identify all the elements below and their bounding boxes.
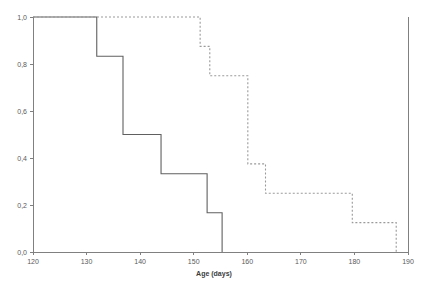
axes-group (33, 17, 408, 252)
data-series-group (33, 17, 396, 252)
tick-marks-group (30, 17, 408, 255)
y-tick-label: 0,2 (17, 202, 27, 209)
y-tick-label: 1,0 (17, 14, 27, 21)
x-tick-label: 140 (134, 258, 146, 265)
x-tick-label: 190 (402, 258, 414, 265)
x-tick-label: 130 (81, 258, 93, 265)
chart-canvas: 120130140150160170180190 0,00,20,40,60,8… (0, 0, 429, 287)
x-tick-labels-group: 120130140150160170180190 (27, 258, 414, 265)
survival-chart-figure: 120130140150160170180190 0,00,20,40,60,8… (0, 0, 429, 287)
y-tick-label: 0,6 (17, 108, 27, 115)
x-tick-label: 160 (241, 258, 253, 265)
x-tick-label: 150 (188, 258, 200, 265)
x-tick-label: 120 (27, 258, 39, 265)
y-tick-label: 0,4 (17, 155, 27, 162)
x-axis-title: Age (days) (196, 270, 232, 278)
x-tick-label: 170 (295, 258, 307, 265)
y-tick-label: 0,8 (17, 61, 27, 68)
y-tick-label: 0,0 (17, 249, 27, 256)
series-path-dotted-curve (33, 17, 396, 252)
x-tick-label: 180 (349, 258, 361, 265)
y-tick-labels-group: 0,00,20,40,60,81,0 (17, 14, 27, 256)
series-path-solid-curve (33, 17, 222, 252)
